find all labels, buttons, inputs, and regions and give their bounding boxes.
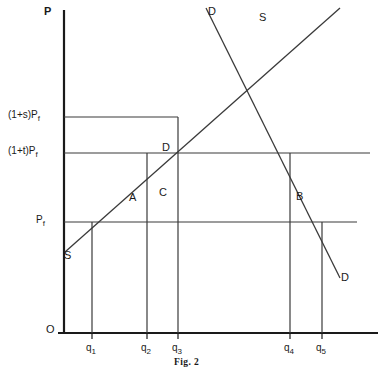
region-label-c: C <box>159 187 167 198</box>
supply-curve <box>65 8 340 252</box>
quantity-label-q4: q4 <box>284 343 294 356</box>
quantity-label-q5: q5 <box>316 343 326 356</box>
supply-curve-label-bottom: S <box>64 250 71 261</box>
figure-caption: Fig. 2 <box>174 357 199 367</box>
y-axis-label: P <box>44 6 51 17</box>
supply-demand-figure <box>0 0 387 378</box>
supply-curve-label-top: S <box>259 12 266 23</box>
demand-curve-label-bottom: D <box>341 272 349 283</box>
quantity-label-q2: q2 <box>141 343 151 356</box>
price-label-tariff: (1+t)Pf <box>8 146 38 159</box>
quantity-label-q1: q1 <box>86 343 96 356</box>
price-label-subsidy: (1+s)Pf <box>8 110 40 123</box>
price-label-world: Pf <box>36 215 45 228</box>
region-label-d: D <box>162 142 170 153</box>
quantity-label-q3: q3 <box>172 343 182 356</box>
origin-label: O <box>46 324 55 335</box>
demand-curve-label-top: D <box>208 6 216 17</box>
region-label-a: A <box>129 192 136 203</box>
demand-curve <box>206 8 340 278</box>
region-label-b: B <box>296 191 303 202</box>
